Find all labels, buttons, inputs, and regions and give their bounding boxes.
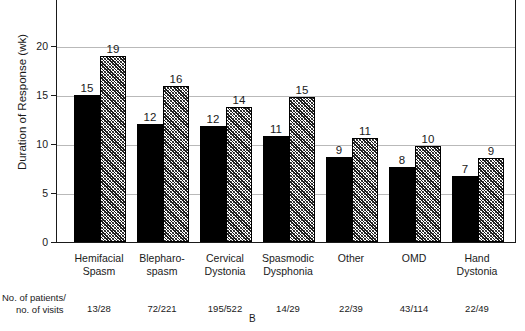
- bar-value-label: 9: [324, 144, 354, 156]
- footer-label-line2: no. of visits: [2, 304, 66, 316]
- y-axis-label: Duration of Response (wk): [16, 2, 28, 202]
- bar-value-label: 11: [261, 123, 291, 135]
- bar-hatched: [352, 138, 378, 242]
- bar-value-label: 15: [72, 82, 102, 94]
- figure-panel-b: Duration of Response (wk) 05101520 15191…: [0, 0, 525, 331]
- plot-area: 151912161214111591181079: [56, 0, 516, 243]
- bar-hatched: [478, 158, 504, 242]
- y-tick-label: 0: [30, 236, 48, 248]
- bar-value-label: 16: [161, 73, 191, 85]
- bar-hatched: [163, 86, 189, 242]
- footer-value: 22/49: [442, 303, 512, 314]
- bar-hatched: [226, 107, 252, 242]
- category-label-line: Dystonia: [434, 265, 520, 278]
- y-tick-label: 20: [30, 40, 48, 52]
- bar-hatched: [289, 97, 315, 242]
- footer-value: 14/29: [253, 303, 323, 314]
- bar-solid: [200, 126, 226, 242]
- bar-value-label: 8: [387, 154, 417, 166]
- panel-letter: B: [249, 313, 256, 324]
- bar-solid: [326, 157, 352, 242]
- bar-value-label: 12: [198, 113, 228, 125]
- bar-value-label: 15: [287, 84, 317, 96]
- bar-solid: [452, 176, 478, 242]
- bar-value-label: 9: [476, 145, 506, 157]
- bar-solid: [389, 167, 415, 242]
- bar-solid: [137, 124, 163, 242]
- bar-value-label: 11: [350, 125, 380, 137]
- bar-hatched: [415, 146, 441, 242]
- bar-value-label: 7: [450, 163, 480, 175]
- category-label-line: Hand: [434, 252, 520, 265]
- plot-inner: 151912161214111591181079: [57, 0, 515, 242]
- y-tick-label: 5: [30, 187, 48, 199]
- bar-solid: [74, 95, 100, 242]
- footer-label: No. of patients/ no. of visits: [2, 292, 66, 315]
- y-tick-label: 15: [30, 89, 48, 101]
- bar-hatched: [100, 56, 126, 242]
- bar-value-label: 12: [135, 111, 165, 123]
- footer-label-line1: No. of patients/: [2, 292, 66, 303]
- footer-value: 22/39: [316, 303, 386, 314]
- bar-value-label: 14: [224, 94, 254, 106]
- footer-value: 13/28: [64, 303, 134, 314]
- y-tick-label: 10: [30, 138, 48, 150]
- x-axis-category-label: HandDystonia: [434, 252, 520, 277]
- bar-value-label: 19: [98, 43, 128, 55]
- footer-value: 72/221: [127, 303, 197, 314]
- bar-value-label: 10: [413, 133, 443, 145]
- footer-value: 43/114: [379, 303, 449, 314]
- category-label-line: Dysphonia: [245, 265, 331, 278]
- bar-solid: [263, 136, 289, 242]
